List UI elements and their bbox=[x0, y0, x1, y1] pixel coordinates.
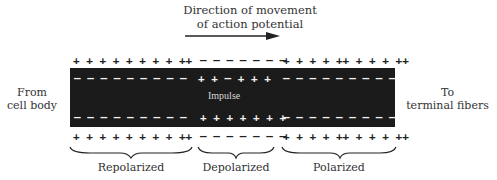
inner-bottom-repolarized-charges: – – – – – – – – – bbox=[74, 112, 187, 124]
brace-polarized-icon bbox=[282, 147, 396, 158]
from-label-line1: From bbox=[0, 86, 64, 99]
outer-top-depolarized-charges: – – – – – – – bbox=[200, 55, 286, 67]
region-label-repolarized: Repolarized bbox=[70, 161, 192, 174]
outer-bottom-polarized-charges: + + + + ++ + + + ++ bbox=[283, 131, 409, 143]
direction-arrow-icon bbox=[185, 32, 280, 40]
from-cell-body-label: From cell body bbox=[0, 86, 64, 112]
region-label-depolarized: Depolarized bbox=[196, 161, 276, 174]
outer-top-repolarized-charges: + + + + + + + + ++ bbox=[73, 55, 192, 67]
to-label-line2: terminal fibers bbox=[398, 99, 497, 112]
impulse-label: Impulse bbox=[208, 90, 240, 101]
outer-bottom-repolarized-charges: + + + + + + + + ++ bbox=[73, 131, 192, 143]
inner-top-depolarized-charges: + + – + + + bbox=[198, 73, 271, 85]
outer-top-polarized-charges: + + + + ++ + + + ++ bbox=[283, 55, 409, 67]
inner-top-polarized-charges: – – – – – – – – – bbox=[283, 73, 396, 85]
to-label-line1: To bbox=[398, 86, 497, 99]
inner-top-repolarized-charges: – – – – – – – – – bbox=[74, 73, 187, 85]
brace-repolarized-icon bbox=[70, 147, 192, 158]
outer-bottom-depolarized-charges: – – – – – – – bbox=[200, 131, 286, 143]
from-label-line2: cell body bbox=[0, 99, 64, 112]
inner-bottom-polarized-charges: – – – – – – – – – bbox=[283, 112, 396, 124]
region-label-polarized: Polarized bbox=[282, 161, 396, 174]
brace-depolarized-icon bbox=[198, 147, 274, 158]
to-terminal-fibers-label: To terminal fibers bbox=[398, 86, 497, 112]
inner-bottom-depolarized-charges: + + + + + + + bbox=[200, 112, 286, 124]
